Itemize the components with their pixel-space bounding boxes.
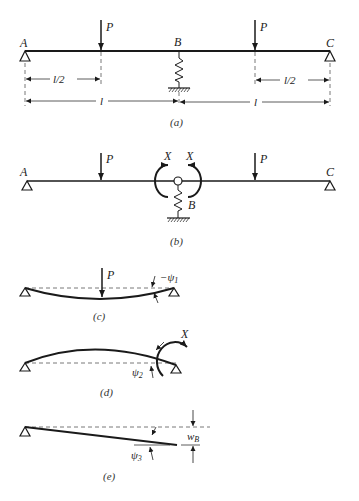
load-label: P xyxy=(105,20,114,34)
node-label-a: A xyxy=(19,36,28,50)
pin-support-icon xyxy=(20,363,30,371)
caption-c: (c) xyxy=(93,310,106,323)
angle-arrow-icon xyxy=(152,276,155,287)
dimension-label: l/2 xyxy=(53,73,65,85)
load-label: P xyxy=(259,152,268,166)
panel-d: X ψ2 (d) xyxy=(20,327,189,399)
angle-arrow-icon xyxy=(150,447,153,460)
node-label-a: A xyxy=(19,165,28,179)
panel-e: ψ3 wB (e) xyxy=(20,410,210,483)
angle-label: −ψ1 xyxy=(160,271,178,285)
pin-support-icon xyxy=(325,51,335,61)
spring-icon xyxy=(175,51,183,88)
dimension-label: l xyxy=(254,96,257,108)
beam-diagram: P P A B C l/2 l/2 l xyxy=(0,0,359,501)
hinge-icon xyxy=(174,177,182,185)
moment-label: X xyxy=(163,149,172,163)
panel-b: P P A C X X B (b) xyxy=(19,149,335,248)
caption-b: (b) xyxy=(170,235,183,248)
load-label: P xyxy=(259,20,268,34)
caption-d: (d) xyxy=(100,386,113,399)
dimension-label: l/2 xyxy=(284,74,296,86)
node-label-b: B xyxy=(188,198,196,212)
moment-label: X xyxy=(180,327,189,341)
caption-a: (a) xyxy=(170,116,183,129)
pin-support-icon xyxy=(171,365,181,373)
load-label: P xyxy=(105,152,114,166)
pin-support-icon xyxy=(325,181,335,190)
angle-arrow-icon xyxy=(152,427,156,435)
node-label-c: C xyxy=(326,165,335,179)
deflection-label: wB xyxy=(187,430,199,444)
node-label-b: B xyxy=(174,35,182,49)
moment-label: X xyxy=(185,149,194,163)
angle-arrow-icon xyxy=(151,366,153,378)
pin-support-icon xyxy=(20,51,30,61)
deflected-beam xyxy=(25,288,174,299)
caption-e: (e) xyxy=(103,470,116,483)
load-label: P xyxy=(106,268,115,282)
angle-arrow-icon xyxy=(154,293,158,303)
panel-a: P P A B C l/2 l/2 l xyxy=(19,20,335,129)
spring-icon xyxy=(174,185,182,218)
panel-c: P −ψ1 (c) xyxy=(20,268,179,323)
pin-support-icon xyxy=(22,181,32,190)
angle-label: ψ3 xyxy=(131,449,142,463)
dimension-label: l xyxy=(100,95,103,107)
rotated-beam xyxy=(25,427,177,445)
node-label-c: C xyxy=(326,36,335,50)
angle-label: ψ2 xyxy=(132,366,143,380)
